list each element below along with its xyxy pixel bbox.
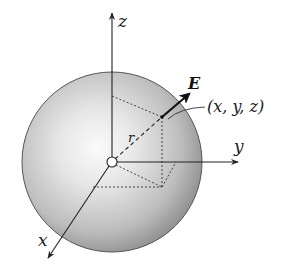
radius-label: r	[128, 130, 135, 145]
field-label: E	[187, 74, 201, 93]
sphere-field-diagram: z y x r E (x, y, z)	[0, 0, 290, 280]
origin-point	[107, 157, 117, 167]
x-axis-label: x	[38, 230, 48, 250]
z-axis-label: z	[117, 11, 128, 31]
diagram-canvas: z y x r E (x, y, z)	[0, 0, 290, 280]
point-coordinates-label: (x, y, z)	[207, 97, 264, 116]
y-axis-label: y	[233, 136, 244, 156]
